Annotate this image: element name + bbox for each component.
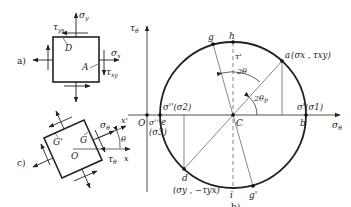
- figure-c-rotated-element: c) G' G O σθ τθ x' x θ: [17, 111, 130, 188]
- label-tau-xy: τxy: [106, 67, 118, 79]
- label-point-G-prime: G': [53, 137, 63, 147]
- sigma-top-arrow-icon: [56, 111, 64, 129]
- stress-diagram: a) σy τyx σx τxy D A c) G': [0, 0, 351, 207]
- label-sigma-theta: σθ: [100, 120, 110, 131]
- sigma-bottom-arrow-icon: [82, 169, 90, 188]
- label-sigma-y: σy: [79, 10, 89, 22]
- label-point-e: e: [161, 117, 166, 127]
- panel-label-a: a): [17, 56, 26, 66]
- label-sigma-prime: σ'(σ1): [297, 102, 323, 112]
- point-O: [145, 113, 149, 117]
- label-point-a: a(σx , τxy): [285, 50, 331, 60]
- label-axis-x-prime: x': [121, 116, 128, 125]
- point-b: [304, 113, 308, 117]
- label-point-i: i: [230, 190, 233, 200]
- figure-b-mohr-circle: τθ σθ O C g h τ' 2θ 2θP a(σx , τxy) σ'(σ…: [128, 23, 342, 207]
- point-C: [231, 113, 235, 117]
- label-origin-O: O: [138, 118, 146, 128]
- label-tau-axis: τθ: [130, 23, 139, 34]
- tau-bottom-arrow-icon: [74, 171, 97, 181]
- label-point-g: g: [208, 32, 214, 42]
- label-point-h: h: [229, 31, 235, 41]
- label-sigma-3: (σ3): [149, 127, 167, 137]
- sigma-theta-left-arrow-icon: [33, 158, 53, 167]
- panel-label-b: b): [231, 202, 240, 207]
- point-g-prime: [251, 184, 255, 188]
- point-g: [211, 42, 215, 46]
- label-tau-theta: τθ: [108, 154, 117, 165]
- label-axis-x: x: [124, 154, 129, 163]
- point-d: [182, 167, 186, 171]
- label-theta: θ: [121, 135, 126, 144]
- label-tau-prime: τ': [235, 52, 242, 61]
- label-angle-2theta-p: 2θP: [253, 94, 268, 104]
- point-a: [280, 59, 284, 63]
- label-tau-yx: τyx: [53, 22, 65, 34]
- label-point-b: b: [300, 118, 306, 128]
- tau-top-arrow-icon: [49, 117, 72, 127]
- label-point-d-coords: (σy , −τyx): [173, 185, 220, 195]
- label-angle-2theta: 2θ: [236, 67, 247, 76]
- label-point-D: D: [64, 43, 72, 53]
- label-sigma-double-prime: σ''(σ2): [163, 102, 191, 112]
- label-center-C: C: [236, 118, 243, 128]
- figure-a-stress-element: a) σy τyx σx τxy D A: [17, 10, 121, 102]
- label-point-G: G: [80, 135, 87, 145]
- element-square: [53, 37, 99, 82]
- label-point-A: A: [81, 62, 89, 72]
- label-sigma-x: σx: [111, 48, 121, 59]
- label-point-g-prime: g': [249, 190, 257, 200]
- panel-label-c: c): [17, 158, 26, 168]
- label-point-d: d: [182, 173, 188, 183]
- label-point-O: O: [71, 151, 79, 161]
- label-sigma-triple-prime: σ''': [149, 118, 160, 127]
- label-sigma-axis: σθ: [332, 120, 342, 131]
- theta-arc-icon: [117, 131, 120, 148]
